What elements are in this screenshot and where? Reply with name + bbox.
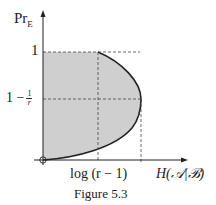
x-axis-arrow-icon: [181, 158, 188, 163]
x-axis-label: H(𝒜|ℬ): [156, 166, 204, 182]
feasible-region: [43, 52, 141, 160]
y-tick-one: 1: [31, 42, 39, 59]
x-tick-log-r-minus-1: log (r − 1): [70, 166, 127, 182]
y-axis-label: PrE: [14, 10, 33, 29]
figure-caption: Figure 5.3: [74, 186, 127, 202]
y-tick-one-minus-inv-r: 1 −1r: [6, 90, 32, 107]
y-axis-arrow-icon: [41, 10, 46, 17]
